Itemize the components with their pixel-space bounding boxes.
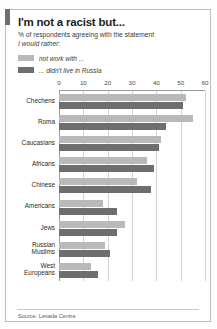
bar [59, 242, 105, 249]
chart-subtitle: % of respondents agreeing with the state… [18, 31, 205, 39]
x-axis-tick-label: 10 [80, 79, 87, 86]
bar [59, 263, 91, 270]
category-label: Chechens [26, 97, 55, 104]
legend-item-didnt-live-in-russia: ... didn't live in Russia [18, 65, 205, 75]
legend-label: not work with ... [39, 55, 84, 62]
legend-label: ... didn't live in Russia [39, 67, 102, 74]
x-axis-tick-label: 0 [57, 79, 60, 86]
bar [59, 250, 110, 257]
x-axis-tick-label: 50 [177, 79, 184, 86]
chart-subtitle-italic: I would rather: [18, 40, 205, 48]
bar-group [59, 260, 205, 281]
bar-group [59, 133, 205, 154]
x-axis-tick-label: 30 [129, 79, 136, 86]
bar [59, 200, 103, 207]
x-axis-tick-label: 20 [104, 79, 111, 86]
chart-inner: I'm not a racist but... % of respondents… [5, 9, 211, 322]
bar-group [59, 197, 205, 218]
bar [59, 102, 183, 109]
bar [59, 186, 151, 193]
category-label: Jews [40, 224, 55, 231]
category-label: Roma [38, 118, 55, 125]
bar-group [59, 218, 205, 239]
bar [59, 94, 186, 101]
gridline [205, 91, 206, 281]
category-label: Americans [25, 202, 55, 209]
source-divider [17, 309, 199, 310]
bar [59, 271, 98, 278]
bar [59, 144, 159, 151]
bar [59, 208, 117, 215]
plot-area: 0102030405060 ChechensRomaCaucasiansAfri… [12, 79, 205, 285]
bars-container [59, 90, 205, 281]
source-note: Source: Levada Centre [18, 313, 76, 319]
category-label: Chinese [32, 181, 55, 188]
bar [59, 123, 166, 130]
category-label: West Europeans [24, 262, 55, 277]
legend-item-not-work-with: not work with ... [18, 53, 205, 63]
bar [59, 165, 154, 172]
bar-group [59, 239, 205, 260]
bar [59, 229, 117, 236]
legend-swatch-icon [18, 67, 34, 73]
x-axis-tick-label: 40 [153, 79, 160, 86]
bar [59, 178, 137, 185]
bar-group [59, 91, 205, 112]
y-axis-category-labels: ChechensRomaCaucasiansAfricansChineseAme… [12, 90, 57, 280]
bar-group [59, 112, 205, 133]
bar [59, 136, 161, 143]
bar [59, 157, 147, 164]
chart-figure: I'm not a racist but... % of respondents… [0, 0, 217, 329]
category-label: Russian Muslims [32, 241, 55, 256]
bar-group [59, 154, 205, 175]
chart-legend: not work with ... ... didn't live in Rus… [18, 53, 205, 75]
x-axis-tick-label: 60 [202, 79, 209, 86]
bar [59, 221, 125, 228]
category-label: Caucasians [22, 139, 55, 146]
bar [59, 115, 193, 122]
page-title: I'm not a racist but... [18, 16, 205, 29]
x-axis: 0102030405060 [59, 79, 205, 90]
bar-group [59, 175, 205, 196]
legend-swatch-icon [18, 55, 34, 61]
category-label: Africans [32, 160, 55, 167]
